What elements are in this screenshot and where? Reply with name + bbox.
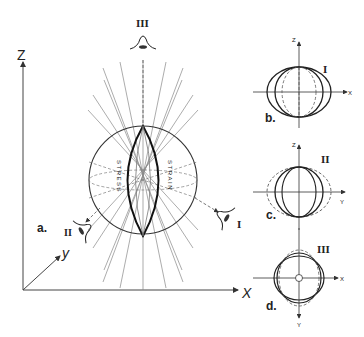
viewpoint-II-label: II <box>64 227 72 238</box>
z-axis-label: Z <box>17 47 26 63</box>
panel-label-d: d. <box>266 299 277 313</box>
panel-label-a: a. <box>37 221 47 235</box>
svg-text:I: I <box>323 63 327 75</box>
svg-text:Y: Y <box>297 322 301 328</box>
svg-text:II: II <box>321 153 330 165</box>
svg-text:Z: Z <box>292 142 296 148</box>
main-axes <box>23 62 238 290</box>
panel-label-b: b. <box>265 111 276 125</box>
eye-icon <box>130 36 156 49</box>
svg-text:III: III <box>317 243 330 255</box>
viewpoint-III-label: III <box>136 17 149 29</box>
svg-text:Z: Z <box>292 37 296 43</box>
svg-text:X: X <box>340 276 344 282</box>
strain-label: STRAIN <box>167 160 173 191</box>
diagram-canvas: Z X y a. STRESS STRAIN III I <box>0 0 364 337</box>
panel-label-c: c. <box>266 208 276 222</box>
x-axis-label: X <box>241 285 252 301</box>
svg-text:Y: Y <box>340 199 344 205</box>
viewpoint-I-label: I <box>237 218 241 230</box>
svg-text:X: X <box>348 90 352 96</box>
eye-icon <box>73 214 97 243</box>
y-axis-label: y <box>61 245 70 261</box>
radiating-lines <box>88 60 198 290</box>
stress-label: STRESS <box>116 160 122 193</box>
eye-icon <box>211 201 235 230</box>
